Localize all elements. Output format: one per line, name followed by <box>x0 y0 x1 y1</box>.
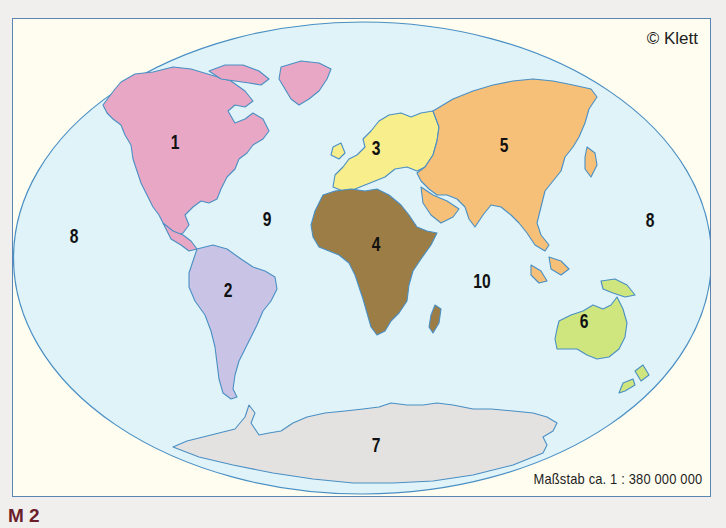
map-frame: © Klett Maßstab ca. 1 : 380 000 000 1 2 … <box>12 18 711 497</box>
map-scale: Maßstab ca. 1 : 380 000 000 <box>533 470 702 487</box>
label-pacific-east: 8 <box>646 210 655 230</box>
label-australia: 6 <box>580 311 589 331</box>
label-pacific-west: 8 <box>70 226 79 246</box>
world-map <box>13 19 711 497</box>
label-antarctica: 7 <box>372 435 381 455</box>
label-north-america: 1 <box>171 132 180 152</box>
label-asia: 5 <box>500 135 509 155</box>
figure-label: M 2 <box>8 505 40 527</box>
label-atlantic: 9 <box>263 209 272 229</box>
copyright-notice: © Klett <box>647 29 698 49</box>
label-indian-ocean: 10 <box>473 271 490 291</box>
label-africa: 4 <box>372 234 381 254</box>
label-europe: 3 <box>372 138 381 158</box>
label-south-america: 2 <box>224 280 233 300</box>
